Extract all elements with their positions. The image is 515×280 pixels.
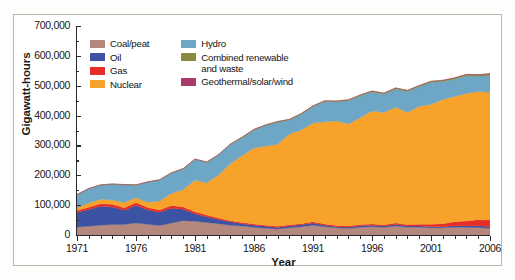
- y-axis-tick-labels: 0100,000200,000300,000400,000500,000600,…: [8, 0, 70, 280]
- y-tick-mark: [76, 86, 81, 87]
- y-tick-mark: [76, 56, 81, 57]
- x-tick-mark-minor: [266, 236, 267, 239]
- y-tick-mark: [76, 26, 81, 27]
- x-tick-mark-minor: [242, 236, 243, 239]
- legend-item-geothermal_solar_wind: Geothermal/solar/wind: [181, 76, 320, 87]
- legend-swatch-combined_renewable_and_waste: [181, 53, 196, 61]
- x-tick-label: 1986: [243, 242, 265, 254]
- x-tick-mark-minor: [348, 236, 349, 239]
- x-tick-mark: [254, 236, 255, 241]
- x-tick-mark: [372, 236, 373, 241]
- y-tick-mark: [76, 145, 81, 146]
- x-tick-label: 1971: [66, 242, 88, 254]
- y-tick-mark-minor: [76, 41, 79, 42]
- x-tick-mark: [490, 236, 491, 241]
- y-tick-label: 600,000: [8, 49, 70, 61]
- legend-swatch-hydro: [181, 40, 196, 48]
- x-tick-mark-minor: [384, 236, 385, 239]
- x-tick-mark-minor: [419, 236, 420, 239]
- y-tick-mark-minor: [76, 71, 79, 72]
- x-axis-line: [76, 235, 490, 236]
- x-tick-mark-minor: [89, 236, 90, 239]
- y-tick-label: 300,000: [8, 138, 70, 150]
- legend-label-coal_peat: Coal/peat: [110, 38, 149, 49]
- x-tick-mark-minor: [101, 236, 102, 239]
- legend-swatch-coal_peat: [90, 40, 105, 48]
- x-tick-mark-minor: [160, 236, 161, 239]
- legend-item-hydro: Hydro: [181, 38, 320, 49]
- y-tick-label: 500,000: [8, 79, 70, 91]
- x-tick-mark-minor: [301, 236, 302, 239]
- y-tick-mark-minor: [76, 190, 79, 191]
- y-tick-label: 200,000: [8, 168, 70, 180]
- x-tick-label: 1996: [361, 242, 383, 254]
- legend-item-oil: Oil: [90, 52, 167, 63]
- x-tick-mark: [431, 236, 432, 241]
- x-tick-label: 2006: [479, 242, 501, 254]
- x-tick-label: 1981: [184, 242, 206, 254]
- x-tick-mark-minor: [325, 236, 326, 239]
- x-tick-label: 1991: [302, 242, 324, 254]
- legend-swatch-oil: [90, 53, 105, 61]
- x-tick-mark-minor: [455, 236, 456, 239]
- legend-item-coal_peat: Coal/peat: [90, 38, 167, 49]
- x-tick-mark: [195, 236, 196, 241]
- legend-item-gas: Gas: [90, 65, 167, 76]
- x-tick-label: 2001: [420, 242, 442, 254]
- y-tick-mark-minor: [76, 131, 79, 132]
- legend-label-oil: Oil: [110, 52, 121, 63]
- legend-column-left: Coal/peatOilGasNuclear: [90, 38, 167, 90]
- legend-swatch-gas: [90, 67, 105, 75]
- x-tick-mark-minor: [337, 236, 338, 239]
- x-tick-mark-minor: [466, 236, 467, 239]
- y-tick-mark: [76, 205, 81, 206]
- x-tick-mark-minor: [278, 236, 279, 239]
- x-tick-mark-minor: [289, 236, 290, 239]
- legend-label-gas: Gas: [110, 65, 127, 76]
- x-tick-mark-minor: [219, 236, 220, 239]
- x-tick-mark: [77, 236, 78, 241]
- x-tick-mark-minor: [230, 236, 231, 239]
- y-tick-mark: [76, 116, 81, 117]
- x-tick-mark-minor: [207, 236, 208, 239]
- x-tick-mark-minor: [148, 236, 149, 239]
- y-tick-label: 700,000: [8, 19, 70, 31]
- x-tick-mark-minor: [112, 236, 113, 239]
- x-tick-mark-minor: [124, 236, 125, 239]
- y-tick-mark: [76, 175, 81, 176]
- x-tick-mark-minor: [407, 236, 408, 239]
- x-tick-mark-minor: [443, 236, 444, 239]
- x-tick-label: 1976: [125, 242, 147, 254]
- y-tick-mark-minor: [76, 160, 79, 161]
- x-tick-mark-minor: [396, 236, 397, 239]
- legend-swatch-nuclear: [90, 80, 105, 88]
- legend-label-nuclear: Nuclear: [110, 79, 142, 90]
- x-tick-mark-minor: [478, 236, 479, 239]
- y-tick-label: 100,000: [8, 198, 70, 210]
- y-tick-label: 400,000: [8, 109, 70, 121]
- x-tick-mark-minor: [183, 236, 184, 239]
- legend-label-combined_renewable_and_waste: Combined renewable and waste: [201, 52, 288, 74]
- x-tick-mark-minor: [171, 236, 172, 239]
- x-tick-mark-minor: [360, 236, 361, 239]
- x-tick-mark: [313, 236, 314, 241]
- legend-item-combined_renewable_and_waste: Combined renewable and waste: [181, 52, 320, 74]
- legend-label-geothermal_solar_wind: Geothermal/solar/wind: [201, 76, 293, 87]
- y-tick-label: 0: [8, 228, 70, 240]
- legend-column-right: HydroCombined renewable and wasteGeother…: [181, 38, 320, 90]
- legend-label-hydro: Hydro: [201, 38, 226, 49]
- figure-page: Gigawatt-hours 0100,000200,000300,000400…: [0, 0, 515, 280]
- legend-swatch-geothermal_solar_wind: [181, 78, 196, 86]
- x-axis-title: Year: [77, 256, 490, 268]
- x-tick-mark: [136, 236, 137, 241]
- chart-legend: Coal/peatOilGasNuclear HydroCombined ren…: [90, 38, 320, 90]
- y-tick-mark-minor: [76, 101, 79, 102]
- y-tick-mark-minor: [76, 220, 79, 221]
- legend-item-nuclear: Nuclear: [90, 79, 167, 90]
